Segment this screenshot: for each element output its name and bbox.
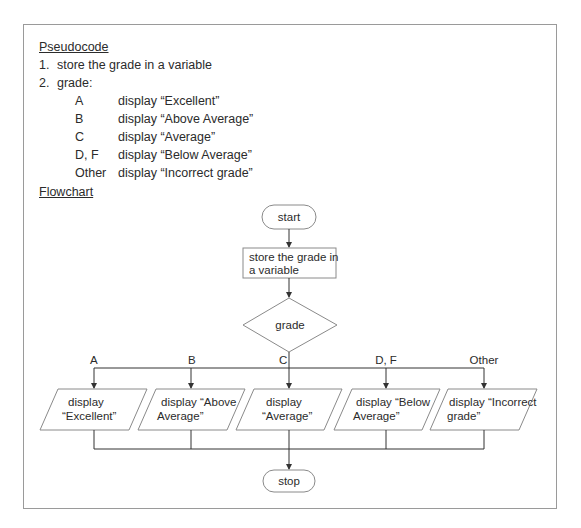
branch-label-other: Other	[470, 354, 499, 366]
output-line-1: display	[68, 396, 104, 408]
branch-label-df: D, F	[375, 354, 397, 366]
stop-terminal: stop	[263, 470, 315, 492]
output-below-average: display “Below Average”	[334, 389, 440, 430]
output-line-2: Average”	[157, 410, 204, 422]
output-line-1: display	[266, 396, 302, 408]
output-line-2: “Excellent”	[62, 410, 116, 422]
output-incorrect-grade: display “Incorrect grade”	[430, 389, 537, 430]
decision-diamond: grade	[243, 298, 337, 352]
process-line-1: store the grade in	[249, 251, 339, 263]
process-line-2: a variable	[249, 264, 299, 276]
output-line-2: grade”	[447, 410, 480, 422]
flowchart: start store the grade in a variable grad…	[0, 0, 581, 528]
output-above-average: display “Above Average”	[138, 389, 245, 430]
decision-label: grade	[275, 319, 304, 331]
output-line-2: “Average”	[262, 410, 312, 422]
start-label: start	[278, 211, 301, 223]
branch-label-b: B	[188, 354, 196, 366]
output-average: display “Average”	[236, 389, 342, 430]
start-terminal: start	[262, 205, 316, 229]
stop-label: stop	[278, 475, 300, 487]
output-line-1: display “Below	[356, 396, 431, 408]
output-line-1: display “Incorrect	[449, 396, 537, 408]
branch-label-c: C	[279, 354, 287, 366]
output-excellent: display “Excellent”	[40, 389, 147, 430]
branch-label-a: A	[90, 354, 98, 366]
output-line-1: display “Above	[161, 396, 236, 408]
process-box: store the grade in a variable	[243, 248, 339, 278]
output-line-2: Average”	[353, 410, 400, 422]
